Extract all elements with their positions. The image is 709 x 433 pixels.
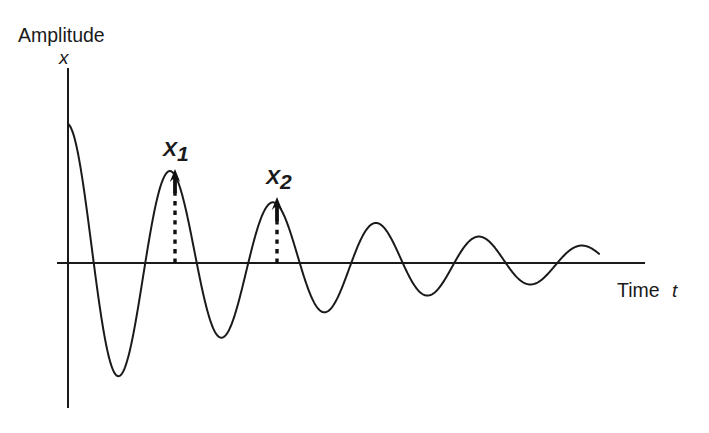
peak-1-label-subscript: 1 bbox=[177, 142, 189, 165]
peak-2-label-subscript: 2 bbox=[279, 170, 292, 193]
peak-2-label: X2 bbox=[265, 165, 292, 193]
damped-sine-curve bbox=[68, 124, 599, 376]
x-axis-title: Time bbox=[617, 279, 660, 301]
damped-oscillation-chart: Amplitude x Time t X1 X2 bbox=[0, 0, 709, 433]
x-axis-variable: t bbox=[672, 280, 678, 301]
peak-1-label: X1 bbox=[162, 137, 189, 165]
y-axis-title: Amplitude bbox=[18, 24, 105, 46]
figure-container: Amplitude x Time t X1 X2 bbox=[0, 0, 709, 433]
y-axis-variable: x bbox=[58, 47, 70, 68]
